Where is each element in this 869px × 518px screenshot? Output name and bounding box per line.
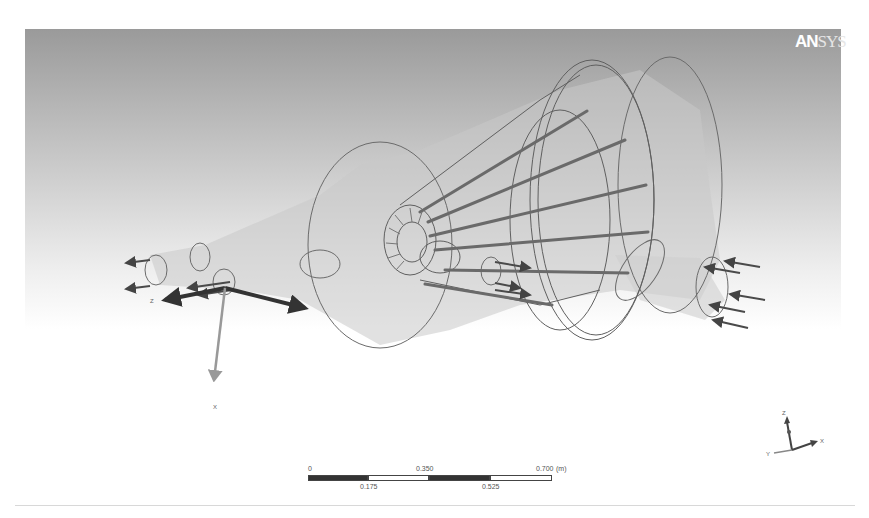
local-z-axis-arrow [165, 288, 225, 300]
local-z-label: Z [150, 298, 154, 304]
scale-segment-1 [308, 475, 368, 481]
triad-graphic [762, 410, 822, 460]
local-coordinate-system[interactable] [165, 288, 305, 380]
outlet-arrow-5 [713, 320, 748, 328]
fluid-domain-shading [150, 70, 725, 345]
scale-label-three-quarter: 0.525 [482, 483, 500, 490]
model-geometry[interactable] [0, 0, 869, 518]
graphics-viewport[interactable]: ANSYS [0, 0, 869, 518]
local-x-axis-arrow [214, 288, 225, 380]
scale-label-quarter: 0.175 [360, 483, 378, 490]
local-x-label: X [213, 404, 217, 410]
scale-segment-3 [429, 475, 490, 481]
triad-z-label: Z [782, 410, 786, 416]
scale-label-max: 0.700 [536, 465, 554, 472]
scale-segment-2 [368, 475, 429, 481]
scale-unit: (m) [556, 465, 567, 472]
scale-bar: 0 0.350 0.700 (m) 0.175 0.525 [306, 463, 566, 499]
scale-segment-4 [490, 475, 552, 481]
scale-label-0: 0 [308, 465, 312, 472]
inlet-arrow-2 [126, 286, 150, 289]
axis-triad[interactable]: Z X Y [762, 410, 822, 460]
outlet-arrow-1 [725, 261, 760, 267]
viewport-bottom-divider [15, 505, 855, 506]
triad-x-label: X [820, 438, 824, 444]
outlet-arrow-3 [730, 294, 765, 300]
triad-y-label: Y [766, 451, 770, 457]
scale-label-mid: 0.350 [416, 465, 434, 472]
